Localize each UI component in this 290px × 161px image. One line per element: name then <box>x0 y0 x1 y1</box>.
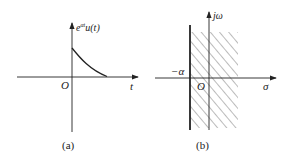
caption-b: (b) <box>196 139 209 152</box>
caption-a: (a) <box>62 139 75 152</box>
y-axis-label-a: eαtu(t) <box>76 22 100 34</box>
origin-label-b: O <box>197 80 205 92</box>
origin-label-a: O <box>61 79 69 91</box>
exponential-decay-curve <box>72 48 107 77</box>
x-axis-label-b: σ <box>263 80 269 92</box>
panel-a: eαtu(t) O t (a) <box>17 22 138 152</box>
figure-canvas: eαtu(t) O t (a) jω −α O σ (b) <box>0 0 290 161</box>
boundary-label: −α <box>171 65 184 77</box>
panel-b: jω −α O σ (b) <box>155 10 276 152</box>
x-axis-label-a: t <box>130 80 134 92</box>
y-axis-label-b: jω <box>211 10 223 21</box>
